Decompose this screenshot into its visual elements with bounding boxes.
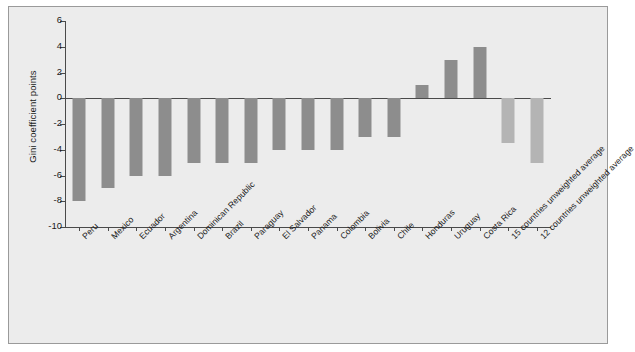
y-axis-title: Gini coefficient points bbox=[27, 32, 38, 202]
y-tick-label: 2 bbox=[57, 66, 62, 77]
y-tick-label: -10 bbox=[48, 220, 62, 231]
y-tick-label: -2 bbox=[54, 117, 62, 128]
bar bbox=[359, 98, 372, 137]
bar-slot bbox=[379, 21, 408, 227]
y-tick-label: 6 bbox=[57, 14, 62, 25]
bar bbox=[387, 98, 400, 137]
bar-slot bbox=[65, 21, 94, 227]
bar bbox=[187, 98, 200, 162]
x-tick-mark bbox=[308, 227, 309, 231]
x-tick-mark bbox=[79, 227, 80, 231]
bar bbox=[273, 98, 286, 150]
plot-area: 6420-2-4-6-8-10 PeruMexicoEcuadorArgenti… bbox=[65, 21, 551, 227]
x-tick-mark bbox=[422, 227, 423, 231]
bar-slot bbox=[294, 21, 323, 227]
x-tick-mark bbox=[337, 227, 338, 231]
bar-slot bbox=[151, 21, 180, 227]
x-tick-mark bbox=[108, 227, 109, 231]
bar bbox=[473, 47, 486, 99]
bar bbox=[416, 85, 429, 98]
bar-slot bbox=[94, 21, 123, 227]
y-tick-label: -8 bbox=[54, 194, 62, 205]
bar-slot bbox=[408, 21, 437, 227]
bar bbox=[330, 98, 343, 150]
x-tick-mark bbox=[508, 227, 509, 231]
y-tick-label: 4 bbox=[57, 40, 62, 51]
x-tick-mark bbox=[365, 227, 366, 231]
x-tick-mark bbox=[480, 227, 481, 231]
bar bbox=[101, 98, 114, 188]
x-tick-mark bbox=[194, 227, 195, 231]
bar bbox=[216, 98, 229, 162]
x-tick-mark bbox=[251, 227, 252, 231]
bar bbox=[444, 60, 457, 99]
bar bbox=[73, 98, 86, 201]
x-tick-mark bbox=[451, 227, 452, 231]
bar bbox=[502, 98, 515, 143]
bar-slot bbox=[179, 21, 208, 227]
bar-slot bbox=[265, 21, 294, 227]
y-tick-label: -4 bbox=[54, 143, 62, 154]
bar bbox=[530, 98, 543, 162]
bar bbox=[159, 98, 172, 175]
bar bbox=[301, 98, 314, 150]
x-tick-mark bbox=[394, 227, 395, 231]
x-tick-mark bbox=[136, 227, 137, 231]
x-tick-mark bbox=[165, 227, 166, 231]
chart-panel: Gini coefficient points 6420-2-4-6-8-10 … bbox=[8, 6, 608, 344]
x-tick-mark bbox=[222, 227, 223, 231]
bar-slot bbox=[351, 21, 380, 227]
y-tick-label: -6 bbox=[54, 169, 62, 180]
bar-slot bbox=[122, 21, 151, 227]
bar bbox=[244, 98, 257, 162]
bar-slot bbox=[494, 21, 523, 227]
bar-slot bbox=[465, 21, 494, 227]
y-tick-label: 0 bbox=[57, 91, 62, 102]
bar-slot bbox=[437, 21, 466, 227]
x-tick-mark bbox=[537, 227, 538, 231]
x-tick-mark bbox=[279, 227, 280, 231]
bar-slot bbox=[322, 21, 351, 227]
bars-layer bbox=[65, 21, 551, 227]
bar bbox=[130, 98, 143, 175]
